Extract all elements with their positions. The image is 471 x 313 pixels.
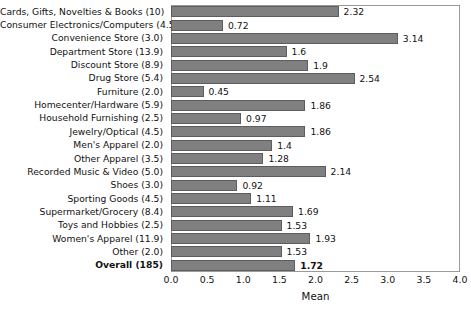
bar-value-label: 1.4	[277, 140, 292, 151]
bar-value-label: 0.92	[242, 180, 262, 191]
category-label: Department Store (13.9)	[0, 47, 163, 57]
bar-value-label: 1.69	[298, 206, 318, 217]
bar	[171, 100, 305, 111]
category-label: Toys and Hobbies (2.5)	[0, 220, 163, 230]
bar	[171, 260, 295, 271]
bar-value-label: 1.11	[256, 193, 276, 204]
category-label: Men's Apparel (2.0)	[0, 140, 163, 150]
category-label: Discount Store (8.9)	[0, 60, 163, 70]
category-label: Other (2.0)	[0, 247, 163, 257]
x-axis-tick-labels: 0.00.51.01.52.02.53.03.54.0	[0, 274, 471, 288]
bar	[171, 193, 251, 204]
category-label: Cards, Gifts, Novelties & Books (10)	[0, 7, 163, 17]
bar-value-label: 1.53	[287, 220, 307, 231]
category-label: Household Furnishing (2.5)	[0, 113, 163, 123]
x-tick-label: 2.5	[344, 274, 359, 286]
bar	[171, 233, 310, 244]
bar-value-label: 1.9	[313, 60, 328, 71]
bar	[171, 166, 326, 177]
bar	[171, 220, 282, 231]
category-label: Supermarket/Grocery (8.4)	[0, 207, 163, 217]
bar-value-label: 2.54	[360, 73, 380, 84]
bar	[171, 206, 293, 217]
bar	[171, 246, 282, 257]
bar-value-label: 2.32	[344, 6, 364, 17]
bars-layer: 2.320.723.141.61.92.540.451.860.971.861.…	[171, 5, 460, 272]
bar-value-label: 1.6	[292, 46, 307, 57]
bar-value-label: 3.14	[403, 33, 423, 44]
bar-value-label: 0.72	[228, 20, 248, 31]
bar	[171, 60, 308, 71]
category-label: Women's Apparel (11.9)	[0, 234, 163, 244]
bar-value-label: 1.86	[310, 126, 330, 137]
x-axis-title: Mean	[171, 291, 460, 302]
category-label: Jewelry/Optical (4.5)	[0, 127, 163, 137]
x-tick-label: 0.0	[164, 274, 179, 286]
category-label: Consumer Electronics/Computers (4.5)	[0, 20, 163, 30]
bar-value-label: 2.14	[331, 166, 351, 177]
bar-value-label: 1.28	[268, 153, 288, 164]
category-label: Sporting Goods (4.5)	[0, 194, 163, 204]
bar	[171, 33, 398, 44]
x-tick-label: 3.0	[380, 274, 395, 286]
bar	[171, 6, 339, 17]
category-label: Recorded Music & Video (5.0)	[0, 167, 163, 177]
category-label: Furniture (2.0)	[0, 87, 163, 97]
bar	[171, 153, 263, 164]
bar-value-label: 0.45	[209, 86, 229, 97]
category-axis-labels: Cards, Gifts, Novelties & Books (10)Cons…	[0, 5, 167, 272]
x-tick-label: 3.5	[416, 274, 431, 286]
horizontal-bar-chart: Cards, Gifts, Novelties & Books (10)Cons…	[0, 0, 471, 313]
bar	[171, 73, 355, 84]
x-tick-label: 2.0	[308, 274, 323, 286]
bar-value-label: 1.86	[310, 100, 330, 111]
bar	[171, 46, 287, 57]
bar-value-label: 1.53	[287, 246, 307, 257]
category-label: Homecenter/Hardware (5.9)	[0, 100, 163, 110]
bar-value-label: 0.97	[246, 113, 266, 124]
x-tick-label: 4.0	[453, 274, 468, 286]
category-label: Convenience Store (3.0)	[0, 33, 163, 43]
x-tick-label: 1.0	[236, 274, 251, 286]
x-tick-label: 1.5	[272, 274, 287, 286]
category-label: Drug Store (5.4)	[0, 73, 163, 83]
bar	[171, 140, 272, 151]
x-tick-label: 0.5	[200, 274, 215, 286]
bar	[171, 126, 305, 137]
category-label: Overall (185)	[0, 260, 163, 270]
bar	[171, 180, 237, 191]
bar	[171, 20, 223, 31]
category-label: Other Apparel (3.5)	[0, 154, 163, 164]
category-label: Shoes (3.0)	[0, 180, 163, 190]
bar-value-label: 1.72	[300, 260, 323, 271]
bar-value-label: 1.93	[315, 233, 335, 244]
bar	[171, 86, 204, 97]
bar	[171, 113, 241, 124]
